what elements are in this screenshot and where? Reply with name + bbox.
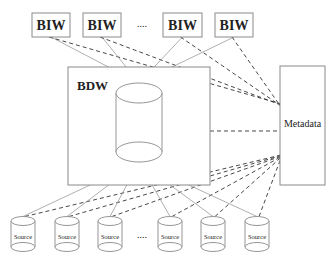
source-to-metadata-link: [215, 157, 281, 216]
architecture-diagram: BDWBIWBIWBIWBIW....MetadataSourceSourceS…: [0, 0, 335, 267]
source-label: Source: [58, 233, 76, 240]
biw-label: BIW: [168, 18, 197, 33]
source-label: Source: [14, 233, 32, 240]
source-ellipsis: ....: [137, 229, 147, 240]
diagram-nodes: BDWBIWBIWBIWBIW....MetadataSourceSourceS…: [11, 13, 325, 252]
biw-label: BIW: [220, 18, 249, 33]
metadata-label: Metadata: [284, 118, 322, 129]
source-to-metadata-link: [259, 158, 281, 217]
source-label: Source: [161, 233, 179, 240]
bdw-label: BDW: [77, 78, 108, 93]
biw-to-metadata-link: [232, 37, 281, 107]
biw-ellipsis: ....: [137, 18, 147, 29]
biw-label: BIW: [88, 18, 117, 33]
source-label: Source: [101, 233, 119, 240]
source-label: Source: [248, 233, 266, 240]
source-label: Source: [204, 233, 222, 240]
warehouse-database-icon: [116, 83, 162, 162]
biw-label: BIW: [37, 18, 66, 33]
